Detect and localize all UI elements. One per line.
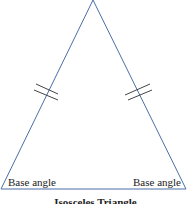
left-base-angle-label: Base angle xyxy=(8,176,56,188)
isosceles-triangle xyxy=(1,0,186,189)
diagram-title: Isosceles Triangle xyxy=(0,196,191,204)
right-base-angle-label: Base angle xyxy=(133,176,181,188)
triangle-figure xyxy=(0,0,191,204)
